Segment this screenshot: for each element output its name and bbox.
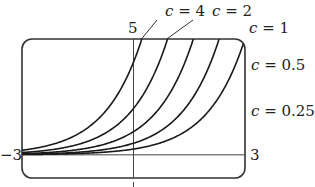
curve-label: c = 0.5 bbox=[251, 56, 305, 74]
tick-xmin: −3 bbox=[0, 146, 22, 164]
curve-labels: c = 4c = 2c = 1c = 0.5c = 0.25 bbox=[141, 2, 315, 120]
leader-line bbox=[141, 20, 157, 40]
curve-label: c = 2 bbox=[212, 2, 252, 20]
tick-xmax: 3 bbox=[250, 146, 260, 164]
curve-label: c = 1 bbox=[249, 19, 289, 37]
leader-line bbox=[167, 20, 193, 39]
exponential-family-plot: −3 3 5 c = 4c = 2c = 1c = 0.5c = 0.25 bbox=[0, 0, 315, 187]
curve-label: c = 4 bbox=[165, 2, 205, 20]
tick-ymax: 5 bbox=[128, 19, 138, 37]
curve-label: c = 0.25 bbox=[251, 102, 315, 120]
